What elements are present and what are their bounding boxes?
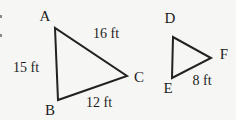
- left-edge-fragment-top: [0, 15, 2, 18]
- vertex-label-e: E: [163, 81, 172, 96]
- vertex-label-d: D: [165, 11, 176, 26]
- triangle-def-outline: [172, 37, 211, 78]
- vertex-label-b: B: [45, 103, 55, 118]
- geometry-diagram: A B C 16 ft 15 ft 12 ft D E F 8 ft: [0, 0, 236, 120]
- side-label-ac: 16 ft: [93, 27, 119, 41]
- vertex-label-a: A: [40, 9, 51, 24]
- vertex-label-c: C: [134, 70, 144, 85]
- left-edge-fragment-bottom: [0, 34, 2, 37]
- side-label-ab: 15 ft: [13, 61, 39, 75]
- side-label-ef: 8 ft: [192, 74, 211, 88]
- side-label-bc: 12 ft: [86, 96, 112, 110]
- vertex-label-f: F: [220, 47, 228, 62]
